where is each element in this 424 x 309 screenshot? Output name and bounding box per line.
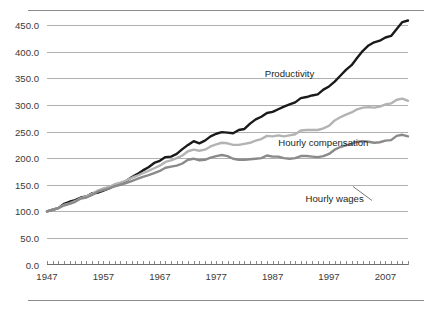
data-series-lines	[47, 21, 408, 212]
series-line-productivity	[47, 21, 408, 212]
y-axis-tick-label: 200.0	[15, 153, 39, 164]
y-axis-tick-label: 350.0	[15, 73, 39, 84]
y-axis-tick-labels: 0.050.0100.0150.0200.0250.0300.0350.0400…	[15, 20, 39, 271]
x-axis-tick-label: 1987	[262, 271, 283, 282]
x-axis-tick-label: 1947	[36, 271, 57, 282]
x-axis-tick-label: 1977	[206, 271, 227, 282]
x-axis-tick-label: 1957	[93, 271, 114, 282]
y-axis-tick-label: 300.0	[15, 100, 39, 111]
y-axis-tick-label: 150.0	[15, 180, 39, 191]
x-axis-tick-label: 1967	[149, 271, 170, 282]
x-axis-minor-ticks	[48, 261, 409, 265]
y-axis-tick-label: 450.0	[15, 20, 39, 31]
series-label-hourly-wages: Hourly wages	[306, 193, 364, 204]
x-axis-tick-label: 2007	[375, 271, 396, 282]
y-axis-tick-label: 100.0	[15, 206, 39, 217]
productivity-vs-compensation-chart: 0.050.0100.0150.0200.0250.0300.0350.0400…	[0, 0, 424, 309]
y-axis-tick-label: 50.0	[20, 233, 39, 244]
y-axis-tick-label: 0.0	[26, 260, 39, 271]
chart-canvas: 0.050.0100.0150.0200.0250.0300.0350.0400…	[0, 0, 424, 309]
y-axis-tick-label: 400.0	[15, 47, 39, 58]
y-axis-tick-label: 250.0	[15, 127, 39, 138]
series-label-hourly-compensation: Hourly compensation	[278, 137, 368, 148]
series-label-productivity: Productivity	[265, 68, 315, 79]
x-axis-tick-label: 1997	[318, 271, 339, 282]
x-axis-tick-labels: 1947195719671977198719972007	[36, 271, 396, 282]
